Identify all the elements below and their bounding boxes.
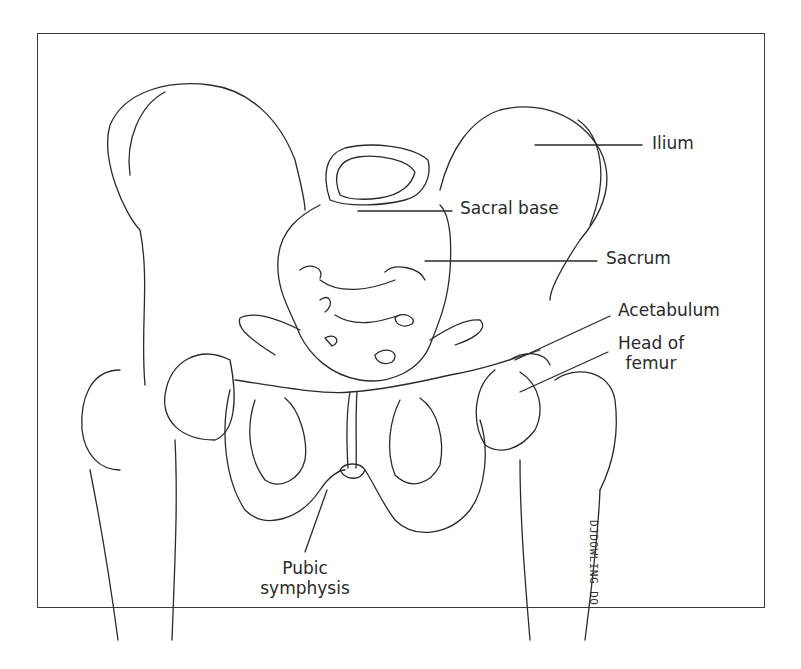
left-femur-shaft	[172, 440, 176, 640]
leader-head-of-femur	[520, 352, 608, 392]
sacrum-outline	[278, 205, 451, 381]
label-acetabulum: Acetabulum	[618, 300, 720, 320]
right-femur-head	[476, 370, 540, 450]
sacral-segment-line	[335, 315, 400, 323]
left-iliac-crest-inner	[129, 92, 165, 175]
label-head-of-femur-line2: femur	[612, 353, 690, 373]
sacral-foramen	[320, 297, 330, 312]
label-pubic-symphysis-line1: Pubic	[255, 558, 355, 578]
label-sacrum: Sacrum	[606, 248, 671, 268]
sacral-foramen	[300, 266, 321, 278]
leader-pubic-symphysis	[305, 490, 327, 552]
label-sacral-base: Sacral base	[460, 198, 559, 218]
sacral-foramen	[325, 336, 337, 346]
pubic-symphysis-line	[347, 392, 350, 468]
left-femur-shaft	[90, 470, 118, 640]
sacral-foramen	[385, 267, 425, 280]
label-pubic-symphysis-line2: symphysis	[255, 578, 355, 598]
left-obturator-foramen	[250, 398, 306, 484]
ischium-outline	[365, 420, 485, 532]
leader-acetabulum	[515, 316, 610, 360]
label-head-of-femur-line1: Head of	[612, 333, 690, 353]
sacral-foramen	[375, 350, 395, 363]
right-obturator-foramen	[390, 398, 442, 484]
label-head-of-femur: Head of femur	[612, 333, 690, 373]
ischium-outline	[225, 390, 345, 520]
label-ilium: Ilium	[652, 133, 694, 153]
label-pubic-symphysis: Pubic symphysis	[255, 558, 355, 598]
left-femur-head	[165, 354, 234, 440]
left-ilium-outline	[108, 84, 305, 385]
pubic-tubercle	[340, 464, 365, 478]
pubic-symphysis-line	[356, 392, 357, 468]
left-femur-greater-trochanter	[82, 370, 120, 470]
right-femur-shaft	[520, 460, 530, 640]
artist-signature: DJDOWLING DO	[587, 520, 600, 605]
sacral-ala-left	[239, 315, 300, 355]
right-femur-greater-trochanter	[555, 372, 616, 490]
sacral-base-inner	[337, 156, 415, 199]
sacral-segment-line	[320, 280, 395, 289]
